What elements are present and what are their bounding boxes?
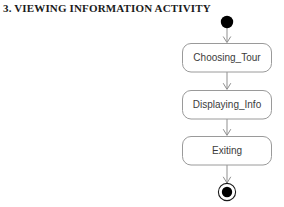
final-node[interactable] [218,183,235,200]
edge-choosing-tour-to-displaying-info [223,72,231,89]
initial-node[interactable] [221,16,233,28]
activity-exiting-label: Exiting [182,145,272,157]
diagram-canvas: 3. VIEWING INFORMATION ACTIVITY [0,0,284,207]
activity-displaying-info-label: Displaying_Info [182,99,272,111]
edge-exiting-to-final [223,165,231,183]
activity-choosing-tour-label: Choosing_Tour [182,52,272,64]
edge-initial-to-choosing-tour [223,27,231,43]
edge-displaying-info-to-exiting [223,119,231,135]
